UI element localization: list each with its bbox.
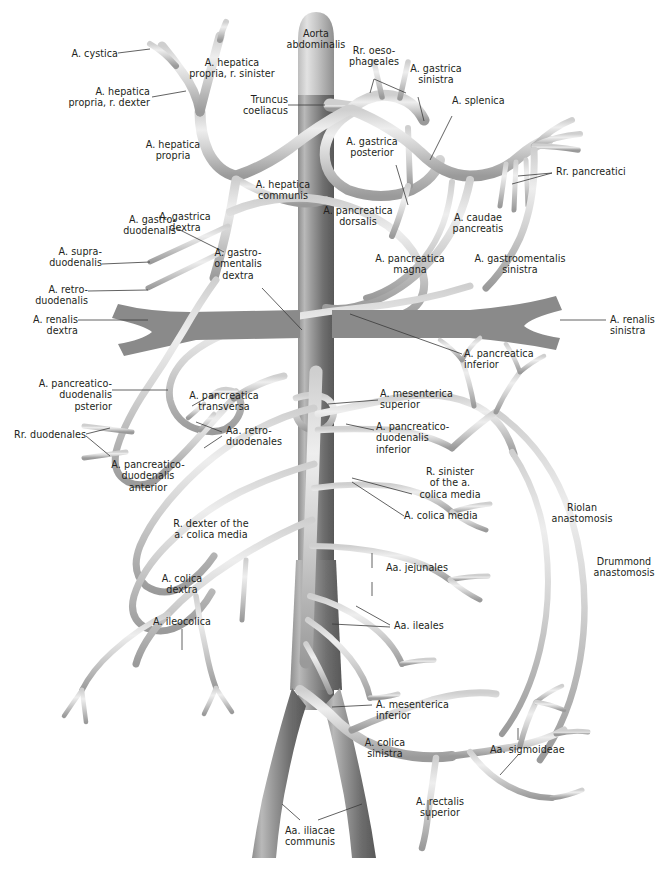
- label-a-gastrica-sinistra: A. gastrica sinistra: [398, 63, 474, 86]
- label-a-colica-dextra: A. colica dextra: [144, 573, 220, 596]
- label-a-hepatica-communis: A. hepatica communis: [238, 179, 328, 202]
- label-a-pancreatica-transversa: A. pancreatica transversa: [178, 390, 270, 413]
- label-a-gastroduodenalis: A. gastro- duodenalis: [96, 214, 176, 237]
- label-a-cystica: A. cystica: [40, 48, 118, 59]
- leader-a-retroduodenalis: [88, 290, 148, 291]
- label-a-hepatica-propria: A. hepatica propria: [128, 139, 218, 162]
- label-a-caudae-pancreatis: A. caudae pancreatis: [438, 212, 518, 235]
- label-rr-pancreatici: Rr. pancreatici: [556, 166, 656, 177]
- label-aa-sigmoideae: Aa. sigmoideae: [490, 744, 586, 755]
- label-a-rectalis-superior: A. rectalis superior: [404, 796, 476, 819]
- label-r-sinister-a-colica-media: R. sinister of the a. colica media: [410, 466, 490, 500]
- label-a-retroduodenalis: A. retro- duodenalis: [10, 284, 88, 307]
- label-a-renalis-sinistra: A. renalis sinistra: [610, 314, 663, 337]
- label-a-pancreaticoduodenalis-inferior: A. pancreatico- duodenalis inferior: [376, 421, 480, 455]
- label-a-splenica: A. splenica: [452, 95, 542, 106]
- label-a-gastrica-posterior: A. gastrica posterior: [330, 136, 414, 159]
- figure-canvas: Aorta abdominalis A. cystica A. hepatica…: [0, 0, 663, 875]
- leader-rr-duodenales-2: [86, 436, 110, 456]
- label-a-ileocolica: A. ileocolica: [136, 616, 228, 627]
- label-a-mesenterica-inferior: A. mesenterica inferior: [376, 699, 468, 722]
- leader-aa-retroduodenales-2: [204, 436, 222, 448]
- label-r-dexter-a-colica-media: R. dexter of the a. colica media: [160, 518, 262, 541]
- label-a-pancreaticoduodenalis-anterior: A. pancreatico- duodenalis anterior: [100, 459, 196, 493]
- label-aa-jejunales: Aa. jejunales: [386, 562, 466, 573]
- label-a-pancreatica-inferior: A. pancreatica inferior: [464, 348, 558, 371]
- label-a-renalis-dextra: A. renalis dextra: [4, 314, 78, 337]
- label-a-pancreatica-dorsalis: A. pancreatica dorsalis: [312, 205, 404, 228]
- leader-aa-sigmoideae-2: [500, 755, 518, 775]
- leader-a-cystica: [118, 49, 150, 53]
- label-a-mesenterica-superior: A. mesenterica superior: [380, 388, 476, 411]
- label-a-pancreaticoduodenalis-posterior: A. pancreatico- duodenalis psterior: [12, 378, 112, 412]
- label-aa-iliacae-communis: Aa. iliacae communis: [272, 825, 348, 848]
- leader-a-supraduodenalis: [102, 262, 150, 264]
- label-a-gastroomentalis-dextra: A. gastro- omentalis dextra: [202, 247, 274, 281]
- label-a-pancreatica-magna: A. pancreatica magna: [362, 253, 458, 276]
- label-drummond-anastomosis: Drummond anastomosis: [588, 556, 660, 579]
- label-truncus-coeliacus: Truncus coeliacus: [218, 94, 288, 117]
- leader-aa-iliacae-communis-left: [282, 804, 300, 820]
- label-a-gastroomentalis-sinistra: A. gastroomentalis sinistra: [458, 253, 582, 276]
- label-a-colica-sinistra: A. colica sinistra: [350, 737, 420, 760]
- label-aa-retroduodenales: Aa. retro- duodenales: [226, 425, 302, 448]
- label-a-supraduodenalis: A. supra- duodenalis: [22, 246, 102, 269]
- label-rr-duodenales: Rr. duodenales: [14, 429, 86, 440]
- label-riolan-anastomosis: Riolan anastomosis: [546, 502, 618, 525]
- label-a-colica-media: A. colica media: [404, 510, 500, 521]
- leader-aa-ileales-2: [332, 624, 390, 627]
- label-a-hepatica-propria-r-dexter: A. hepatica propria, r. dexter: [30, 86, 150, 109]
- label-aa-ileales: Aa. ileales: [394, 620, 474, 631]
- leader-a-hepatica-propria-r-dexter: [152, 91, 186, 97]
- leader-rr-oesophageales: [370, 79, 374, 93]
- label-a-hepatica-propria-r-sinister: A. hepatica propria, r. sinister: [172, 57, 292, 80]
- leader-a-splenica: [430, 116, 452, 160]
